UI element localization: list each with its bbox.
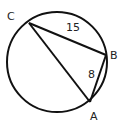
length-cb: 15 (66, 21, 80, 34)
length-ba: 8 (88, 68, 95, 81)
label-c: C (7, 10, 15, 23)
circle-diagram: C B A 15 8 (0, 0, 121, 120)
label-a: A (90, 110, 98, 120)
label-b: B (110, 49, 118, 62)
